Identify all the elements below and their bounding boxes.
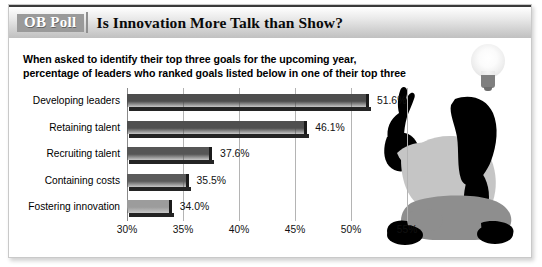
chart-bar-row: Recruiting talent37.6%: [127, 143, 407, 170]
chart-bar: Retaining talent46.1%: [127, 121, 307, 137]
chart-bar-shadow: [129, 187, 191, 191]
chart-bar-row: Developing leaders51.6%: [127, 90, 407, 117]
chart-bar-end-cap: [304, 121, 307, 134]
chart-bar-end-cap: [169, 200, 172, 213]
chart-bar-end-cap: [209, 147, 212, 160]
panel-header: OB Poll Is Innovation More Talk than Sho…: [9, 5, 531, 38]
chart-bar-fill: [127, 121, 307, 134]
chart-bar-shadow: [129, 213, 174, 217]
x-axis-tick-label: 55%: [397, 224, 417, 235]
chart-category-label: Containing costs: [45, 175, 120, 186]
chart-bar-end-cap: [366, 94, 369, 107]
chart-bar: Recruiting talent37.6%: [127, 147, 212, 163]
chart-bar-shadow: [129, 134, 309, 138]
chart-category-label: Retaining talent: [49, 122, 120, 133]
chart-category-label: Fostering innovation: [28, 201, 120, 212]
chart-bar: Fostering innovation34.0%: [127, 200, 172, 216]
chart-value-label: 51.6%: [377, 95, 406, 106]
chart-bar: Developing leaders51.6%: [127, 94, 369, 110]
chart-bar-row: Retaining talent46.1%: [127, 117, 407, 144]
gridline-55: [407, 88, 408, 221]
chart-bar-fill: [127, 200, 172, 213]
x-axis-tick-label: 35%: [173, 224, 193, 235]
chart-bar-shadow: [129, 107, 371, 111]
chart-bar-fill: [127, 174, 189, 187]
chart-bar-fill: [127, 94, 369, 107]
chart-bar-shadow: [129, 160, 214, 164]
x-axis-tick-label: 40%: [229, 224, 249, 235]
chart-value-label: 46.1%: [315, 122, 344, 133]
chart-category-label: Developing leaders: [33, 95, 120, 106]
chart-bar-row: Containing costs35.5%: [127, 170, 407, 197]
chart-description: When asked to identify their top three g…: [23, 52, 411, 80]
x-axis-tick-label: 30%: [117, 224, 137, 235]
chart-value-label: 35.5%: [197, 175, 226, 186]
chart-value-label: 34.0%: [180, 201, 209, 212]
chart-category-label: Recruiting talent: [46, 148, 120, 159]
chart-bar-fill: [127, 147, 212, 160]
x-axis-tick-label: 45%: [285, 224, 305, 235]
chart-bar-row: Fostering innovation34.0%: [127, 196, 407, 223]
page-title: Is Innovation More Talk than Show?: [97, 14, 343, 32]
header-divider: [86, 12, 88, 33]
chart-value-label: 37.6%: [220, 148, 249, 159]
panel-body: When asked to identify their top three g…: [9, 38, 531, 257]
ob-poll-infographic: OB Poll Is Innovation More Talk than Sho…: [0, 0, 542, 267]
poll-panel: OB Poll Is Innovation More Talk than Sho…: [8, 4, 532, 258]
x-axis-tick-label: 50%: [341, 224, 361, 235]
chart-bar-end-cap: [186, 174, 189, 187]
ob-poll-badge: OB Poll: [17, 14, 84, 32]
chart-plot-area: 30%35%40%45%50%55%Developing leaders51.6…: [127, 88, 407, 221]
chart-bar: Containing costs35.5%: [127, 174, 189, 190]
bar-chart: 30%35%40%45%50%55%Developing leaders51.6…: [9, 88, 429, 248]
